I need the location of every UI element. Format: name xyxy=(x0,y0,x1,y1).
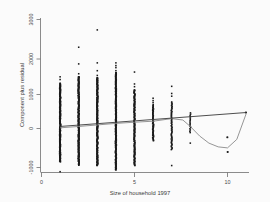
data-point xyxy=(78,63,80,65)
data-point xyxy=(227,137,229,139)
partial-residual-plot: 3000 2000 1000 0 -1000 Component plus re… xyxy=(0,0,270,202)
y-axis-title: Component plus residual xyxy=(19,63,25,127)
data-point xyxy=(97,70,99,72)
data-point xyxy=(59,79,61,81)
data-point xyxy=(190,142,192,144)
data-point xyxy=(171,86,173,88)
data-point xyxy=(78,73,80,75)
data-point xyxy=(134,83,136,85)
data-point xyxy=(190,112,192,114)
data-point xyxy=(152,104,154,106)
data-point xyxy=(189,121,191,123)
x-ticklabel-10: 10 xyxy=(225,179,231,185)
data-point xyxy=(152,100,154,102)
x-ticklabel-5: 5 xyxy=(133,179,136,185)
data-point xyxy=(97,62,99,64)
data-point xyxy=(189,132,191,134)
data-point xyxy=(115,65,117,67)
x-axis-title: Size of household 1997 xyxy=(110,190,171,196)
data-point xyxy=(134,71,136,73)
y-ticklabel-0: 0 xyxy=(28,127,34,130)
data-point xyxy=(171,95,173,97)
data-point xyxy=(97,29,99,31)
data-point xyxy=(134,89,136,91)
y-ticklabel-1000: 1000 xyxy=(28,89,34,101)
y-ticklabel-2000: 2000 xyxy=(28,53,34,65)
data-point xyxy=(171,93,173,95)
data-point xyxy=(152,102,154,104)
data-point xyxy=(97,77,99,79)
data-point xyxy=(190,113,192,115)
data-point xyxy=(59,76,61,78)
y-ticklabel-neg1000: -1000 xyxy=(28,161,34,175)
data-point xyxy=(115,67,117,69)
data-point xyxy=(97,75,99,77)
data-point xyxy=(59,83,61,85)
data-point xyxy=(78,76,80,78)
data-point xyxy=(115,62,117,64)
data-point xyxy=(171,165,173,167)
data-point xyxy=(59,171,61,173)
data-point xyxy=(115,72,117,74)
data-point xyxy=(227,151,229,153)
x-ticklabel-0: 0 xyxy=(40,179,43,185)
data-point xyxy=(115,70,117,72)
data-point xyxy=(78,46,80,48)
data-point xyxy=(152,97,154,99)
data-point xyxy=(190,119,192,121)
chart-screenshot: 3000 2000 1000 0 -1000 Component plus re… xyxy=(0,0,270,202)
data-point xyxy=(189,129,191,131)
data-point xyxy=(134,86,136,88)
y-ticklabel-3000: 3000 xyxy=(28,14,34,26)
data-point xyxy=(171,101,173,103)
